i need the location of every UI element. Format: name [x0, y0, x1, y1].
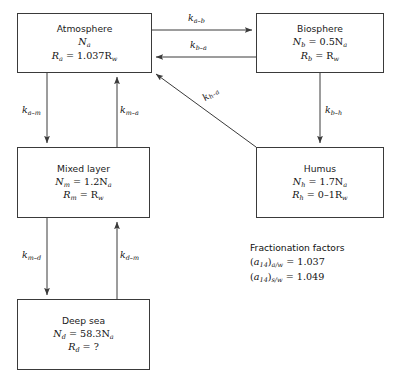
- fractionation-row-a-w: (a14)a/w = 1.037: [250, 256, 345, 269]
- box-deep-sea-label: Deep sea: [62, 315, 105, 327]
- fractionation-row-s-w: (a14)s/w = 1.049: [250, 271, 345, 284]
- box-deep-sea[interactable]: Deep sea Nd = 58.3Na Rd = ?: [17, 299, 150, 370]
- box-mixed-layer-line1: Nm = 1.2Na: [55, 176, 111, 189]
- box-atmosphere-label: Atmosphere: [57, 23, 113, 35]
- box-humus-line2: Rh = 0–1Rw: [292, 189, 347, 202]
- box-atmosphere[interactable]: Atmosphere Na Ra = 1.037Rw: [17, 13, 152, 73]
- arrow-label-a-b: ka–b: [188, 12, 205, 25]
- box-deep-sea-line2: Rd = ?: [68, 341, 99, 354]
- box-atmosphere-line2: Ra = 1.037Rw: [52, 50, 118, 63]
- arrow-h-a: [156, 74, 256, 147]
- box-mixed-layer-label: Mixed layer: [57, 163, 110, 175]
- box-humus-label: Humus: [304, 163, 336, 175]
- box-biosphere[interactable]: Biosphere Nb = 0.5Na Rb = Rw: [256, 13, 384, 73]
- arrow-label-m-a: km–a: [120, 104, 139, 117]
- box-biosphere-label: Biosphere: [297, 23, 343, 35]
- fractionation-factors: Fractionation factors (a14)a/w = 1.037 (…: [250, 242, 345, 285]
- box-mixed-layer-line2: Rm = Rw: [63, 189, 103, 202]
- box-deep-sea-line1: Nd = 58.3Na: [53, 328, 113, 341]
- arrow-label-d-m: kd–m: [120, 249, 139, 262]
- box-biosphere-line1: Nb = 0.5Na: [293, 36, 347, 49]
- box-atmosphere-line1: Na: [78, 36, 90, 49]
- fractionation-heading: Fractionation factors: [250, 242, 345, 253]
- box-humus[interactable]: Humus Nh = 1.7Na Rh = 0–1Rw: [256, 147, 384, 218]
- box-mixed-layer[interactable]: Mixed layer Nm = 1.2Na Rm = Rw: [17, 147, 150, 218]
- arrow-label-m-d: km–d: [22, 249, 41, 262]
- box-humus-line1: Nh = 1.7Na: [293, 176, 347, 189]
- box-biosphere-line2: Rb = Rw: [301, 50, 339, 63]
- carbon-cycle-diagram: Atmosphere Na Ra = 1.037Rw Biosphere Nb …: [0, 0, 401, 383]
- arrow-label-b-h: kb–h: [325, 104, 342, 117]
- arrow-label-b-a: kb–a: [190, 39, 207, 52]
- arrow-label-a-m: ka–m: [22, 104, 41, 117]
